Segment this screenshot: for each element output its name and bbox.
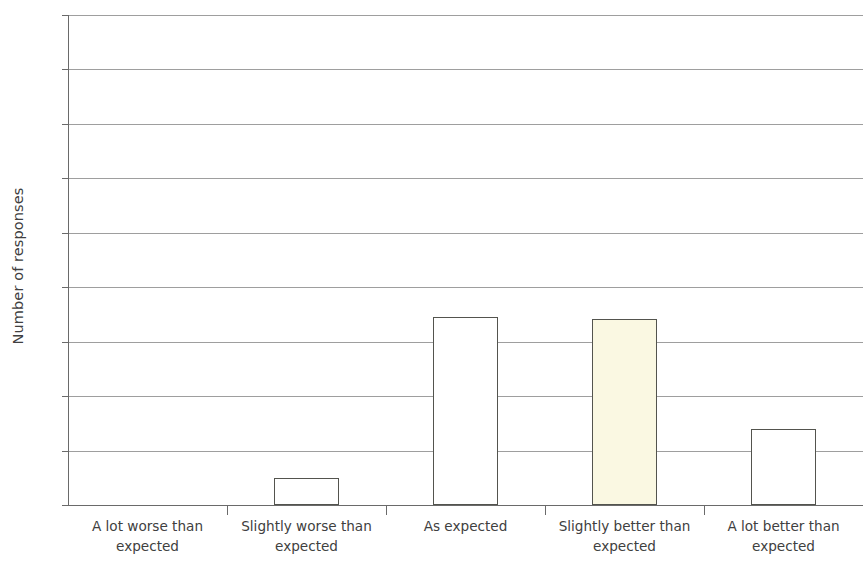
x-axis-label-line: expected bbox=[227, 536, 386, 556]
x-axis-label: As expected bbox=[386, 516, 545, 536]
plot-area: 024681012141618 bbox=[68, 15, 863, 505]
x-axis-label-line: expected bbox=[545, 536, 704, 556]
x-axis-separator bbox=[545, 506, 546, 515]
bar bbox=[274, 478, 338, 505]
bar-series bbox=[68, 15, 863, 505]
x-axis-separator bbox=[386, 506, 387, 515]
x-axis-label: A lot better thanexpected bbox=[704, 516, 863, 556]
x-axis-separator bbox=[704, 506, 705, 515]
x-axis-separator bbox=[227, 506, 228, 515]
x-axis-label: Slightly worse thanexpected bbox=[227, 516, 386, 556]
bar bbox=[751, 429, 815, 505]
x-axis-label: Slightly better thanexpected bbox=[545, 516, 704, 556]
x-axis-labels: A lot worse thanexpectedSlightly worse t… bbox=[68, 516, 863, 568]
y-axis-tick bbox=[62, 505, 69, 506]
y-axis-title: Number of responses bbox=[10, 166, 26, 366]
x-axis-label-line: Slightly better than bbox=[545, 516, 704, 536]
bar bbox=[433, 317, 497, 505]
gridline bbox=[68, 505, 863, 506]
x-axis-label-line: expected bbox=[704, 536, 863, 556]
bar-chart: Number of responses 024681012141618 A lo… bbox=[0, 0, 863, 568]
x-axis-label: A lot worse thanexpected bbox=[68, 516, 227, 556]
x-axis-label-line: Slightly worse than bbox=[227, 516, 386, 536]
x-axis-label-line: A lot worse than bbox=[68, 516, 227, 536]
x-axis-label-line: A lot better than bbox=[704, 516, 863, 536]
x-axis-label-line: expected bbox=[68, 536, 227, 556]
x-axis-label-line: As expected bbox=[386, 516, 545, 536]
bar bbox=[592, 319, 656, 505]
